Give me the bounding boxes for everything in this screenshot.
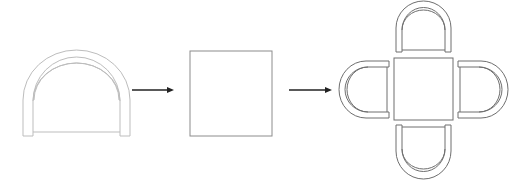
arrow-1 (132, 87, 174, 93)
table-symbol (190, 51, 272, 136)
arrow-2 (289, 87, 332, 93)
chair-bottom (396, 125, 451, 179)
chair-left (339, 61, 389, 118)
chair-top (396, 1, 451, 52)
chair-symbol (23, 50, 130, 136)
center-table (394, 58, 453, 120)
furniture-diagram (0, 0, 525, 189)
table-with-chairs-symbol (339, 1, 508, 179)
chair-right (458, 61, 508, 118)
